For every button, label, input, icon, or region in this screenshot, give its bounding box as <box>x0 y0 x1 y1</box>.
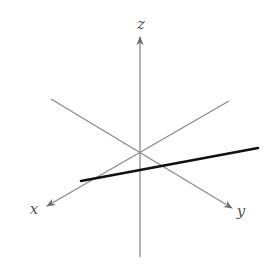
diagram-canvas: x y z <box>0 0 267 267</box>
y-axis-label: y <box>236 202 246 220</box>
z-axis-label: z <box>136 15 145 33</box>
axes-diagram: x y z <box>0 0 267 267</box>
space-line <box>81 148 258 181</box>
x-axis-label: x <box>30 200 39 218</box>
